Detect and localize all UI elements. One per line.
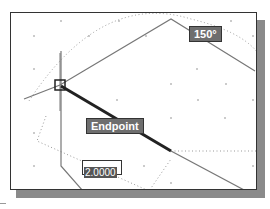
grid-dots [33, 20, 254, 184]
margin-tick [0, 203, 6, 204]
angle-tooltip: 150° [189, 26, 222, 42]
line-preview-extension [171, 151, 246, 190]
viewport-shadow-bottom [16, 190, 265, 198]
existing-polyline-left [61, 51, 83, 190]
dynamic-input-length[interactable]: 2.0000 [82, 160, 122, 175]
drawing-viewport[interactable]: 150° Endpoint 2.0000 [10, 12, 257, 190]
viewport-shadow-right [257, 20, 265, 197]
dynamic-input-value[interactable]: 2.0000 [84, 167, 117, 178]
osnap-tooltip: Endpoint [86, 118, 144, 134]
